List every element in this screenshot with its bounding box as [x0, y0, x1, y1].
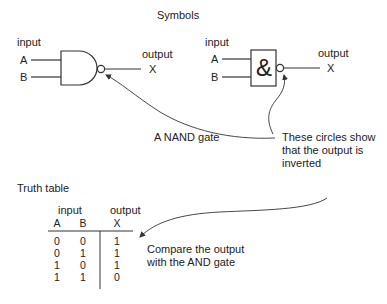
and-body — [61, 51, 97, 85]
arrow-to-truth-table — [140, 198, 327, 237]
symbols-title: Symbols — [157, 9, 199, 21]
circles-note-line1: These circles show — [282, 131, 376, 143]
left-input-label: input — [17, 36, 41, 48]
right-input-a: A — [211, 53, 218, 65]
left-output-x: X — [149, 63, 156, 75]
table-cell: 1 — [111, 247, 123, 259]
table-cell: 1 — [111, 235, 123, 247]
right-output-label: output — [318, 47, 349, 59]
table-cell: 0 — [51, 235, 63, 247]
truth-table-title: Truth table — [17, 182, 69, 194]
table-cell: 0 — [111, 271, 123, 283]
table-cell: 0 — [77, 235, 89, 247]
table-cell: 1 — [77, 271, 89, 283]
ampersand-symbol: & — [256, 56, 272, 80]
circles-note-line3: inverted — [282, 157, 321, 169]
truth-table-output-header: output — [110, 204, 141, 216]
column-header-a: A — [51, 217, 63, 229]
left-input-a: A — [20, 54, 27, 66]
inversion-bubble — [97, 65, 104, 72]
right-input-label: input — [205, 36, 229, 48]
nand-gate-us-symbol — [31, 51, 141, 85]
right-output-x: X — [327, 62, 334, 74]
compare-note-line2: with the AND gate — [147, 256, 235, 268]
circles-note-line2: that the output is — [282, 144, 363, 156]
table-cell: 0 — [51, 247, 63, 259]
nand-gate-caption: A NAND gate — [154, 131, 219, 143]
right-input-b: B — [211, 71, 218, 83]
table-cell: 1 — [111, 259, 123, 271]
table-cell: 1 — [77, 247, 89, 259]
truth-table-input-header: input — [58, 204, 82, 216]
column-header-x: X — [111, 217, 123, 229]
left-input-b: B — [20, 71, 27, 83]
compare-note-line1: Compare the output — [147, 243, 244, 255]
arrow-to-left-bubble — [106, 75, 275, 138]
table-cell: 0 — [77, 259, 89, 271]
arrow-to-right-bubble — [269, 75, 285, 134]
left-output-label: output — [142, 48, 173, 60]
inversion-bubble — [276, 64, 283, 71]
table-cell: 1 — [51, 271, 63, 283]
column-header-b: B — [77, 217, 89, 229]
table-cell: 1 — [51, 259, 63, 271]
